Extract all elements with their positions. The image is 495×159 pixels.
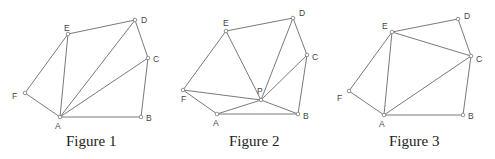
vertex-label-B: B [468,111,474,121]
vertex-label-P: P [257,86,263,96]
segment-AD [60,20,135,117]
figure-2-caption: Figure 2 [229,133,279,150]
vertex-label-B: B [303,111,309,121]
segment-CD [135,20,148,58]
figure-3: ABCDEF [337,11,482,129]
segment-EF [25,34,68,93]
segment-FA [349,91,384,115]
segment-FA [25,93,60,117]
vertex-B-icon [461,113,465,117]
vertex-label-F: F [181,94,186,104]
figure-2: ABCDEFP [181,8,318,128]
figure-3-caption: Figure 3 [389,133,439,150]
vertex-D-icon [133,18,137,22]
figure-1-caption: Figure 1 [66,133,116,150]
vertex-label-B: B [146,113,152,123]
segment-DE [226,18,293,31]
segment-PB [261,100,298,114]
segment-PE [226,31,261,100]
segment-DE [68,20,135,34]
vertex-C-icon [305,53,309,57]
vertex-D-icon [291,16,295,20]
segment-AE [384,32,392,115]
segment-BC [141,58,148,117]
vertex-F-icon [347,89,351,93]
vertex-E-icon [224,29,228,33]
vertex-A-icon [382,113,386,117]
vertex-F-icon [23,91,27,95]
figures-panel: ABCDEFABCDEFPABCDEF Figure 1 Figure 2 Fi… [0,0,495,159]
vertex-label-E: E [64,23,70,33]
figure-1: ABCDEF [12,15,159,131]
segment-CD [458,19,471,56]
segment-PD [261,18,293,100]
segment-BC [298,55,307,114]
segment-PC [261,55,307,100]
segment-DE [392,19,458,32]
vertex-B-icon [296,112,300,116]
vertex-label-F: F [12,91,17,101]
vertex-label-E: E [382,21,388,31]
segment-BC [463,56,471,115]
vertex-label-D: D [141,15,147,25]
vertex-label-D: D [464,11,470,21]
segment-AC [384,56,471,115]
segment-PA [217,100,261,114]
vertex-label-A: A [55,121,61,131]
vertex-label-A: A [379,119,385,129]
vertex-label-C: C [312,52,318,62]
segment-EF [349,32,392,91]
vertex-label-F: F [337,93,342,103]
vertex-F-icon [181,88,185,92]
vertex-E-icon [390,30,394,34]
vertex-label-A: A [213,118,219,128]
vertex-label-E: E [223,18,229,28]
segment-CD [293,18,307,55]
vertex-label-D: D [299,8,305,18]
vertex-A-icon [58,115,62,119]
segment-EC [392,32,471,56]
segment-AE [60,34,68,117]
segment-EF [183,31,226,90]
vertex-C-icon [146,56,150,60]
vertex-C-icon [469,54,473,58]
vertex-P-icon [259,98,263,102]
vertex-label-C: C [476,54,482,64]
vertex-D-icon [456,17,460,21]
vertex-B-icon [139,115,143,119]
vertex-A-icon [215,112,219,116]
segment-AC [60,58,148,117]
vertex-label-C: C [153,54,159,64]
